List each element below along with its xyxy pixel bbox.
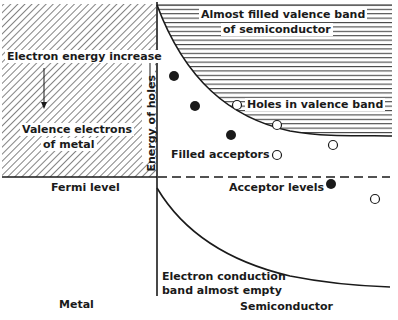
energy-of-holes-label: Energy of holes bbox=[145, 70, 158, 172]
hole-circle bbox=[233, 101, 242, 110]
acceptor-levels-label: Acceptor levels bbox=[227, 181, 326, 194]
valence-band-label-line1: Almost filled valence band bbox=[199, 8, 367, 21]
conduction-band-label-line2: band almost empty bbox=[160, 284, 284, 297]
filled-acceptor-dot bbox=[326, 179, 336, 189]
filled-acceptors-label: Filled acceptors bbox=[169, 148, 272, 161]
hole-circle bbox=[273, 151, 282, 160]
valence-electrons-label-line1: Valence electrons bbox=[20, 123, 134, 136]
hole-circle bbox=[371, 195, 380, 204]
holes-in-valence-band-label: Holes in valence band bbox=[245, 98, 385, 111]
fermi-level-label: Fermi level bbox=[49, 181, 122, 194]
filled-acceptor-dot bbox=[190, 101, 200, 111]
hole-circle bbox=[273, 121, 282, 130]
filled-acceptor-dot bbox=[226, 130, 236, 140]
electron-energy-increase-label: Electron energy increase bbox=[5, 50, 164, 63]
metal-title: Metal bbox=[57, 298, 96, 311]
metal-valence-region bbox=[2, 4, 156, 177]
conduction-band-label-line1: Electron conduction bbox=[160, 270, 288, 283]
valence-electrons-label-line2: of metal bbox=[41, 138, 97, 151]
semiconductor-title: Semiconductor bbox=[238, 300, 335, 313]
hole-circle bbox=[329, 141, 338, 150]
valence-band-label-line2: of semiconductor bbox=[221, 23, 333, 36]
filled-acceptor-dot bbox=[169, 71, 179, 81]
